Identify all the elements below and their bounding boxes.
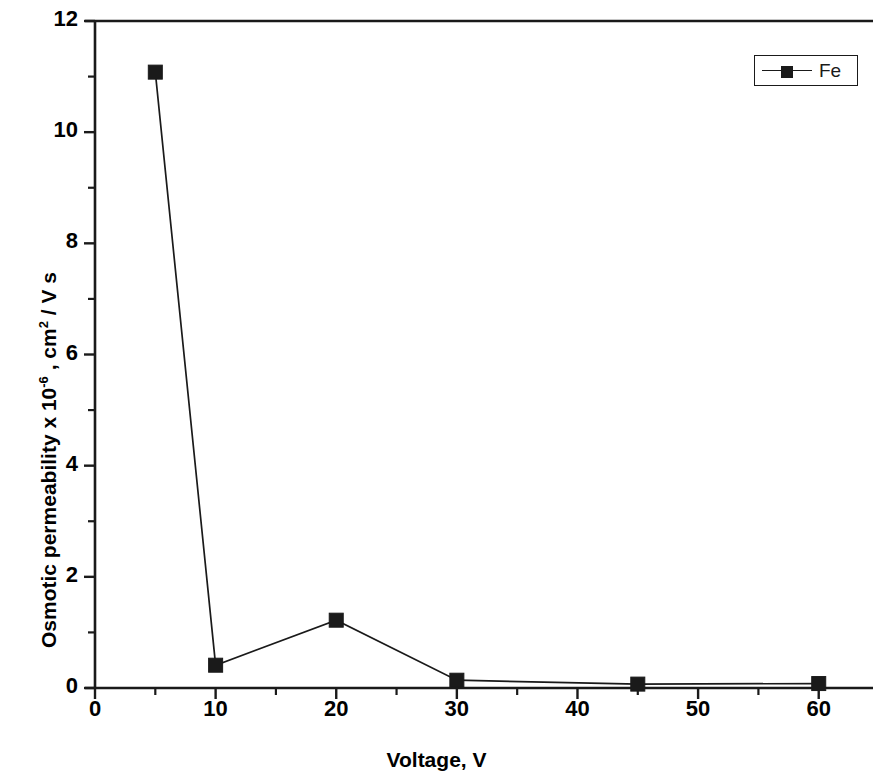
x-axis-tick-label: 10	[186, 698, 246, 720]
series-line	[155, 72, 818, 684]
x-axis-tick-label: 40	[547, 698, 607, 720]
y-axis-tick-label: 10	[38, 119, 78, 141]
legend: Fe	[754, 55, 858, 86]
data-point-marker	[450, 673, 464, 687]
x-axis-tick-label: 0	[65, 698, 125, 720]
y-axis-tick-label: 2	[38, 564, 78, 586]
chart-figure: Osmotic permeability x 10-6 , cm2 / V s …	[0, 0, 873, 775]
x-axis-tick-label: 50	[668, 698, 728, 720]
x-axis-title: Voltage, V	[0, 748, 873, 772]
x-axis-tick-label: 30	[427, 698, 487, 720]
data-point-marker	[148, 65, 162, 79]
y-axis-tick-label: 12	[38, 8, 78, 30]
x-axis-tick-label: 60	[789, 698, 849, 720]
data-point-marker	[209, 658, 223, 672]
legend-label: Fe	[819, 61, 841, 80]
legend-entry: Fe	[755, 56, 857, 85]
legend-square-marker-icon	[781, 66, 793, 78]
data-point-marker	[812, 677, 826, 691]
y-axis-tick-label: 0	[38, 675, 78, 697]
data-point-marker	[329, 613, 343, 627]
y-axis-tick-label: 8	[38, 230, 78, 252]
legend-swatch	[762, 64, 812, 78]
x-axis-tick-labels: 0102030405060	[0, 698, 873, 738]
data-series-fe	[148, 65, 825, 691]
x-axis-tick-label: 20	[306, 698, 366, 720]
plot-canvas	[0, 0, 873, 775]
y-axis-tick-labels: 024681012	[32, 0, 78, 710]
y-axis-tick-label: 4	[38, 453, 78, 475]
y-axis-tick-label: 6	[38, 342, 78, 364]
data-point-marker	[631, 677, 645, 691]
